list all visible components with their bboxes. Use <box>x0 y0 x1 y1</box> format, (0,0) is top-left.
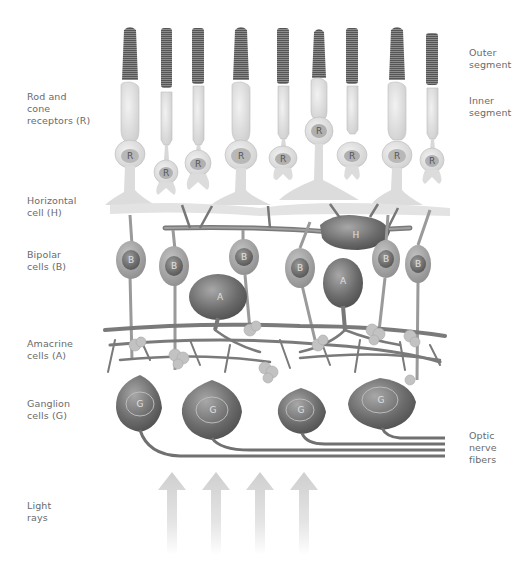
svg-text:R: R <box>394 151 400 161</box>
svg-text:G: G <box>298 405 305 415</box>
amacrine-layer: A A <box>189 258 363 330</box>
svg-text:R: R <box>429 156 435 166</box>
receptor-cell: R <box>185 28 211 190</box>
arrow-up-icon <box>246 472 274 555</box>
arrow-up-icon <box>290 472 318 555</box>
svg-text:R: R <box>163 168 169 178</box>
svg-text:A: A <box>340 276 347 286</box>
svg-text:R: R <box>195 159 201 169</box>
receptor-cell: R <box>211 27 271 205</box>
receptor-cell: R <box>337 28 367 180</box>
bipolar-cell: B <box>285 222 315 340</box>
svg-text:B: B <box>297 263 303 273</box>
svg-text:R: R <box>280 154 286 164</box>
ganglion-layer: G G G G <box>116 375 416 440</box>
amacrine-cell: A <box>189 274 247 330</box>
svg-text:R: R <box>127 151 133 161</box>
synapse-clusters <box>129 321 420 385</box>
svg-text:G: G <box>137 399 144 409</box>
svg-text:B: B <box>383 254 389 264</box>
svg-text:B: B <box>415 259 421 269</box>
arrow-up-icon <box>158 472 186 555</box>
svg-text:B: B <box>241 252 247 262</box>
svg-text:R: R <box>349 151 355 161</box>
svg-text:R: R <box>316 126 322 136</box>
amacrine-cell: A <box>323 258 363 330</box>
ganglion-cell: G <box>278 388 326 434</box>
svg-text:G: G <box>210 405 217 415</box>
receptor-cell: R <box>420 33 444 184</box>
svg-text:B: B <box>171 261 177 271</box>
inner-plexiform-network <box>105 325 445 372</box>
svg-text:R: R <box>238 151 244 161</box>
receptor-layer: R R R R <box>105 27 450 216</box>
receptor-cell: R <box>269 28 297 180</box>
svg-text:H: H <box>353 230 360 240</box>
optic-nerve-fibers <box>140 428 445 456</box>
svg-text:B: B <box>128 255 134 265</box>
light-ray-arrows <box>158 472 318 555</box>
receptor-cell: R <box>105 27 155 205</box>
receptor-cell: R <box>154 28 178 195</box>
arrow-up-icon <box>202 472 230 555</box>
ganglion-cell: G <box>182 380 242 440</box>
receptor-cell: R <box>371 27 423 205</box>
svg-text:A: A <box>217 292 224 302</box>
ganglion-cell: G <box>116 375 162 432</box>
retina-illustration: R R R R <box>0 0 527 568</box>
ganglion-cell: G <box>348 378 416 430</box>
svg-text:G: G <box>378 395 385 405</box>
